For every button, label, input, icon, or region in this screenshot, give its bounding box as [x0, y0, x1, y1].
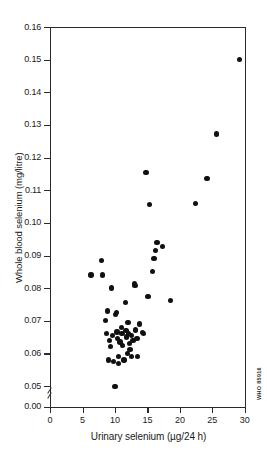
data-point [114, 310, 119, 315]
plot-frame-right [245, 27, 246, 408]
x-tick-label-30: 30 [233, 415, 257, 425]
data-point [237, 57, 242, 62]
y-tick-0-11 [44, 190, 50, 191]
y-tick-label-0-15: 0.15 [0, 54, 41, 64]
x-tick-5 [83, 407, 84, 413]
data-point [151, 256, 156, 261]
y-tick-0-16 [44, 27, 50, 28]
data-point [103, 318, 108, 323]
y-tick-0-12 [44, 158, 50, 159]
data-point [125, 320, 130, 325]
data-point [154, 240, 159, 245]
data-point [100, 272, 105, 277]
data-point [99, 258, 104, 263]
data-point [143, 170, 148, 175]
x-tick-label-25: 25 [200, 415, 224, 425]
data-point [214, 131, 219, 136]
data-point [120, 343, 125, 348]
y-tick-label-0-08: 0.08 [0, 283, 41, 293]
y-tick-0-06 [44, 353, 50, 354]
data-point [150, 269, 155, 274]
data-point [112, 384, 117, 389]
data-point [108, 344, 113, 349]
data-point [137, 321, 142, 326]
y-tick-0-08 [44, 288, 50, 289]
plot-frame-top [50, 27, 246, 28]
data-point [123, 300, 128, 305]
x-tick-label-15: 15 [135, 415, 159, 425]
plot-frame-left [50, 27, 51, 408]
y-tick-label-0-00: 0.00 [0, 401, 41, 411]
data-point [204, 176, 209, 181]
y-tick-label-0-13: 0.13 [0, 119, 41, 129]
data-point [135, 354, 140, 359]
x-tick-15 [147, 407, 148, 413]
x-tick-label-10: 10 [103, 415, 127, 425]
x-tick-label-20: 20 [168, 415, 192, 425]
data-point [141, 331, 146, 336]
y-tick-label-0-05: 0.05 [0, 381, 41, 391]
y-tick-label-0-16: 0.16 [0, 22, 41, 32]
data-point [109, 285, 114, 290]
y-tick-0-05 [44, 386, 50, 387]
data-point [116, 354, 121, 359]
y-tick-0-09 [44, 256, 50, 257]
x-tick-0 [50, 407, 51, 413]
y-tick-label-0-07: 0.07 [0, 315, 41, 325]
y-tick-0-13 [44, 125, 50, 126]
data-point [105, 308, 110, 313]
x-tick-label-0: 0 [38, 415, 62, 425]
data-point [132, 283, 137, 288]
y-tick-0-10 [44, 223, 50, 224]
x-tick-label-5: 5 [71, 415, 95, 425]
publication-credit-code: WHO 85916 [256, 367, 262, 400]
y-tick-label-0-14: 0.14 [0, 87, 41, 97]
y-tick-0-14 [44, 92, 50, 93]
y-axis-title: Whole blood selenium (mg/litre) [13, 152, 24, 282]
x-tick-20 [180, 407, 181, 413]
data-point [153, 248, 158, 253]
data-point [129, 354, 134, 359]
data-point [147, 202, 152, 207]
data-point [168, 298, 173, 303]
data-point [107, 338, 112, 343]
data-point [145, 294, 150, 299]
scatter-plot-figure: 0.000.050.060.070.080.090.100.110.120.13… [0, 0, 267, 463]
data-point [121, 357, 126, 362]
y-tick-0-07 [44, 321, 50, 322]
data-point [193, 201, 198, 206]
data-point [127, 347, 132, 352]
x-tick-25 [212, 407, 213, 413]
data-point [134, 336, 139, 341]
data-point [160, 244, 165, 249]
data-point [104, 331, 109, 336]
y-tick-0-15 [44, 60, 50, 61]
x-tick-30 [245, 407, 246, 413]
x-axis-title: Urinary selenium (µg/24 h) [30, 431, 267, 442]
y-tick-label-0-06: 0.06 [0, 348, 41, 358]
data-point [133, 327, 138, 332]
x-tick-10 [115, 407, 116, 413]
data-point [88, 272, 93, 277]
